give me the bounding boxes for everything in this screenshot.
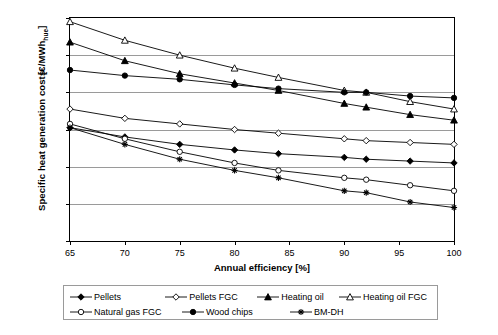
open-diamond-marker [67, 106, 73, 112]
legend-item-wood-chips[interactable]: Wood chips [180, 306, 288, 318]
legend-item-pellets[interactable]: Pellets [68, 291, 163, 303]
x-tick-mark [235, 241, 236, 245]
legend-item-pellets-fgc[interactable]: Pellets FGC [163, 291, 255, 303]
open-diamond-marker [451, 141, 457, 147]
filled-circle-marker [276, 86, 281, 91]
asterisk-marker [363, 190, 369, 196]
open-diamond-marker [275, 130, 281, 136]
legend-item-natural-gas-fgc[interactable]: Natural gas FGC [68, 306, 180, 318]
open-diamond-marker [231, 126, 237, 132]
filled-circle-marker [407, 93, 412, 98]
filled-circle-marker [451, 95, 456, 100]
y-axis-unit-prefix: [€/MWh [36, 41, 47, 75]
x-tick-mark [125, 241, 126, 245]
filled-diamond-marker [407, 158, 413, 164]
chart-legend: Pellets Pellets FGC Heating oil Heating … [63, 285, 438, 320]
x-tick-label: 95 [384, 248, 414, 258]
filled-diamond-marker [231, 147, 237, 153]
legend-label: Pellets FGC [189, 292, 244, 302]
filled-triangle-marker [121, 57, 128, 63]
chart-page: Specific heat generation costs [€/MWhhue… [0, 0, 498, 335]
open-circle-marker [122, 136, 127, 141]
x-tick-mark [289, 241, 290, 245]
open-diamond-marker [407, 139, 413, 145]
legend-row-1: Pellets Pellets FGC Heating oil Heating … [68, 289, 433, 304]
filled-diamond-marker [341, 154, 347, 160]
open-diamond-marker [341, 136, 347, 142]
asterisk-marker [231, 167, 237, 173]
asterisk-icon [288, 306, 314, 318]
open-circle-icon [68, 306, 94, 318]
filled-diamond-icon [68, 291, 94, 303]
open-circle-marker [407, 183, 412, 188]
open-circle-marker [232, 160, 237, 165]
series-line [70, 22, 454, 109]
legend-label: Natural gas FGC [94, 307, 168, 317]
legend-item-bm-dh[interactable]: BM-DH [288, 306, 384, 318]
x-tick-label: 85 [274, 248, 304, 258]
filled-triangle-marker [67, 39, 74, 45]
y-axis-title-unit: [€/MWhhue] [36, 26, 49, 76]
series-layer [70, 18, 454, 241]
filled-diamond-marker [177, 141, 183, 147]
filled-circle-marker [67, 67, 72, 72]
legend-label: BM-DH [314, 307, 350, 317]
x-tick-mark [454, 241, 455, 245]
filled-circle-marker [364, 90, 369, 95]
asterisk-marker [451, 204, 457, 210]
plot-area: 10012014016018020022065707580859095100 [69, 17, 455, 242]
open-circle-marker [451, 188, 456, 193]
open-triangle-marker [67, 18, 74, 24]
y-axis-title-main: Specific heat generation costs [36, 71, 47, 211]
filled-circle-marker [190, 309, 195, 314]
x-tick-mark [399, 241, 400, 245]
filled-circle-marker [177, 77, 182, 82]
asterisk-marker [275, 175, 281, 181]
open-triangle-marker [121, 37, 128, 43]
open-circle-marker [342, 175, 347, 180]
legend-label: Pellets [94, 292, 127, 302]
filled-diamond-marker [275, 150, 281, 156]
filled-diamond-marker [363, 156, 369, 162]
legend-label: Wood chips [206, 307, 259, 317]
legend-item-heating-oil-fgc[interactable]: Heating oil FGC [337, 291, 433, 303]
x-tick-mark [70, 241, 71, 245]
asterisk-marker [122, 141, 128, 147]
x-tick-label: 65 [55, 248, 85, 258]
asterisk-marker [341, 188, 347, 194]
x-tick-mark [344, 241, 345, 245]
open-circle-marker [276, 168, 281, 173]
x-tick-label: 75 [165, 248, 195, 258]
filled-diamond-marker [451, 160, 457, 166]
filled-circle-marker [342, 90, 347, 95]
series-line [70, 42, 454, 120]
open-circle-marker [364, 177, 369, 182]
series-line [70, 124, 454, 191]
legend-label: Heating oil [281, 292, 330, 302]
open-diamond-marker [177, 121, 183, 127]
asterisk-marker [298, 308, 304, 314]
x-tick-label: 70 [110, 248, 140, 258]
x-tick-label: 100 [439, 248, 469, 258]
open-circle-marker [78, 309, 83, 314]
x-tick-mark [180, 241, 181, 245]
open-diamond-icon [163, 291, 189, 303]
filled-circle-marker [232, 82, 237, 87]
legend-row-2: Natural gas FGC Wood chips BM-DH [68, 304, 433, 319]
x-tick-label: 80 [220, 248, 250, 258]
y-axis-unit-subscript: hue [42, 29, 49, 41]
open-diamond-marker [173, 293, 179, 299]
open-diamond-marker [363, 137, 369, 143]
open-circle-marker [177, 149, 182, 154]
asterisk-marker [177, 156, 183, 162]
asterisk-marker [407, 199, 413, 205]
open-triangle-icon [337, 291, 363, 303]
asterisk-marker [67, 125, 73, 131]
legend-item-heating-oil[interactable]: Heating oil [255, 291, 337, 303]
x-tick-label: 90 [329, 248, 359, 258]
filled-triangle-icon [255, 291, 281, 303]
filled-circle-marker [122, 73, 127, 78]
y-axis-unit-suffix: ] [36, 26, 47, 29]
filled-diamond-marker [78, 293, 84, 299]
open-diamond-marker [122, 115, 128, 121]
